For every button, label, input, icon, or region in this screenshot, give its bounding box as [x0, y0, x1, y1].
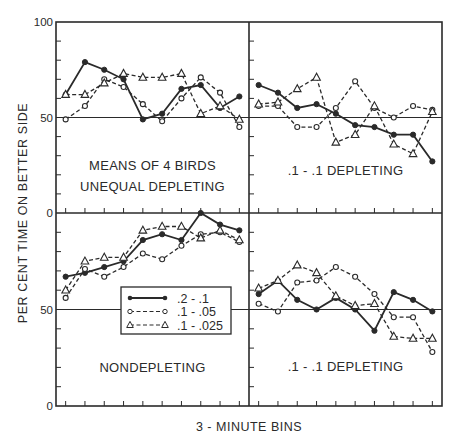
filled-circle-marker	[160, 111, 165, 116]
open-circle-marker	[411, 104, 416, 109]
filled-circle-marker	[237, 228, 242, 233]
filled-circle-marker	[430, 309, 435, 314]
legend-open-circle-icon	[128, 309, 132, 313]
figure: PER CENT TIME ON BETTER SIDE 3 - MINUTE …	[0, 0, 458, 447]
open-triangle-marker	[332, 138, 340, 145]
panel-subtitle: UNEQUAL DEPLETING	[80, 179, 225, 194]
open-triangle-marker	[429, 334, 437, 341]
legend-label: .1 - .05	[177, 305, 216, 319]
open-circle-marker	[353, 79, 358, 84]
filled-circle-marker	[333, 111, 338, 116]
open-triangle-marker	[62, 286, 70, 293]
open-triangle-marker	[236, 115, 244, 122]
filled-circle-marker	[295, 105, 300, 110]
open-circle-marker	[179, 243, 184, 248]
open-circle-marker	[63, 117, 68, 122]
filled-circle-marker	[63, 274, 68, 279]
open-circle-marker	[314, 125, 319, 130]
open-circle-marker	[237, 125, 242, 130]
filled-circle-marker	[160, 232, 165, 237]
filled-circle-marker	[198, 210, 203, 215]
filled-circle-marker	[256, 291, 261, 296]
open-triangle-marker	[274, 98, 282, 105]
open-triangle-marker	[216, 226, 224, 233]
open-triangle-marker	[293, 85, 301, 92]
open-circle-marker	[198, 75, 203, 80]
filled-circle-marker	[314, 102, 319, 107]
open-triangle-marker	[139, 226, 147, 233]
open-circle-marker	[218, 90, 223, 95]
open-triangle-marker	[390, 332, 398, 339]
open-triangle-marker	[81, 257, 89, 264]
filled-circle-marker	[391, 290, 396, 295]
open-circle-marker	[121, 265, 126, 270]
y-tick-label: 50	[40, 112, 53, 124]
x-axis-label: 3 - MINUTE BINS	[196, 420, 302, 434]
y-tick-label: 100	[34, 16, 53, 28]
open-triangle-marker	[120, 253, 128, 260]
open-circle-marker	[256, 301, 261, 306]
series-line	[259, 77, 433, 153]
open-triangle-marker	[81, 90, 89, 97]
open-circle-marker	[314, 278, 319, 283]
panel-title: .1 - .1 DEPLETING	[288, 163, 404, 178]
panels: 100500500MEANS OF 4 BIRDSUNEQUAL DEPLETI…	[34, 16, 442, 412]
filled-circle-marker	[430, 159, 435, 164]
legend-open-circle-icon	[163, 309, 167, 313]
series-line	[259, 281, 433, 331]
legend-filled-circle-icon	[128, 296, 133, 301]
y-tick-label: 50	[40, 304, 53, 316]
open-circle-marker	[140, 251, 145, 256]
legend-label: .1 - .025	[177, 319, 223, 333]
filled-circle-marker	[140, 237, 145, 242]
legend-label: .2 - .1	[177, 292, 209, 306]
open-circle-marker	[333, 105, 338, 110]
filled-circle-marker	[82, 60, 87, 65]
filled-circle-marker	[140, 117, 145, 122]
open-circle-marker	[140, 102, 145, 107]
open-circle-marker	[295, 125, 300, 130]
filled-circle-marker	[372, 328, 377, 333]
filled-circle-marker	[179, 237, 184, 242]
panel-top-right: .1 - .1 DEPLETING	[249, 41, 442, 213]
open-circle-marker	[102, 274, 107, 279]
chart-svg: PER CENT TIME ON BETTER SIDE 3 - MINUTE …	[0, 0, 458, 447]
legend: .2 - .1.1 - .05.1 - .025	[121, 287, 231, 334]
filled-circle-marker	[353, 123, 358, 128]
open-triangle-marker	[293, 261, 301, 268]
open-circle-marker	[63, 295, 68, 300]
open-circle-marker	[160, 119, 165, 124]
panel-bottom-right: .1 - .1 DEPLETING	[249, 232, 442, 406]
filled-circle-marker	[237, 94, 242, 99]
series-line	[259, 85, 433, 161]
panel-top-left: MEANS OF 4 BIRDSUNEQUAL DEPLETING	[56, 41, 249, 213]
panel-title: .1 - .1 DEPLETING	[288, 359, 404, 374]
filled-circle-marker	[198, 82, 203, 87]
open-triangle-marker	[371, 300, 379, 307]
open-circle-marker	[372, 292, 377, 297]
open-circle-marker	[179, 96, 184, 101]
filled-circle-marker	[314, 307, 319, 312]
open-triangle-marker	[313, 73, 321, 80]
open-circle-marker	[275, 309, 280, 314]
open-triangle-marker	[390, 140, 398, 147]
series-line	[66, 77, 240, 127]
y-tick-label: 0	[47, 400, 53, 412]
open-circle-marker	[411, 315, 416, 320]
open-circle-marker	[391, 315, 396, 320]
filled-circle-marker	[372, 124, 377, 129]
open-circle-marker	[430, 349, 435, 354]
y-axis-label: PER CENT TIME ON BETTER SIDE	[16, 103, 30, 324]
open-circle-marker	[295, 280, 300, 285]
open-triangle-marker	[120, 69, 128, 76]
figure-caption-cropped	[48, 437, 378, 447]
panel-title: NONDEPLETING	[99, 360, 205, 375]
open-circle-marker	[160, 257, 165, 262]
filled-circle-marker	[102, 67, 107, 72]
open-circle-marker	[121, 84, 126, 89]
panel-title: MEANS OF 4 BIRDS	[89, 158, 216, 173]
filled-circle-marker	[295, 297, 300, 302]
open-triangle-marker	[178, 222, 186, 229]
open-circle-marker	[82, 104, 87, 109]
filled-circle-marker	[275, 90, 280, 95]
